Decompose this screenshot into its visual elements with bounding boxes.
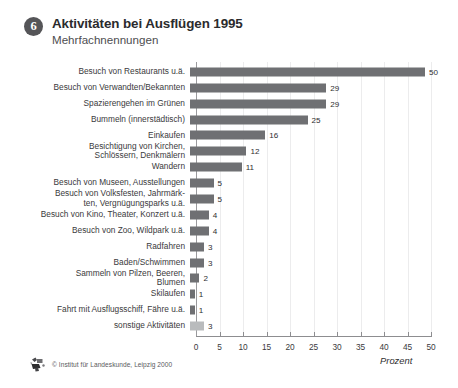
bar-container: 1 [190, 286, 458, 302]
bar-container: 16 [190, 128, 458, 144]
bar-container: 2 [190, 270, 458, 286]
bar-row: Besuch von Kino, Theater, Konzert u.ä.4 [0, 207, 458, 223]
x-axis-tick-label: 25 [304, 342, 324, 352]
bar-value-label: 12 [250, 147, 259, 156]
chart-header: 6 Aktivitäten bei Ausflügen 1995 Mehrfac… [24, 16, 243, 47]
bar-container: 12 [190, 143, 458, 159]
bar-value-label: 25 [312, 115, 321, 124]
bar-value-label: 3 [208, 322, 213, 331]
x-axis-tick-label: 40 [374, 342, 394, 352]
bar-value-label: 3 [208, 242, 213, 251]
x-axis-line [196, 336, 431, 337]
bar [190, 147, 246, 156]
x-axis-tick-label: 5 [210, 342, 230, 352]
category-label: Baden/Schwimmen [0, 258, 190, 268]
x-axis-tick-label: 30 [327, 342, 347, 352]
bar-row: Bummeln (innerstädtisch)25 [0, 112, 458, 128]
bar-value-label: 29 [330, 99, 339, 108]
bar-container: 5 [190, 191, 458, 207]
bar-value-label: 1 [199, 290, 204, 299]
bar-value-label: 1 [199, 306, 204, 315]
category-label: Besuch von Kino, Theater, Konzert u.ä. [0, 210, 190, 220]
institute-logo-icon [29, 356, 46, 373]
bar-container: 3 [190, 255, 458, 271]
bar-container: 50 [190, 64, 458, 80]
figure-number-badge: 6 [24, 17, 43, 36]
bar-value-label: 5 [218, 194, 223, 203]
bar-value-label: 3 [208, 258, 213, 267]
bar [190, 115, 308, 124]
bar [190, 99, 326, 108]
category-label: sonstige Aktivitäten [0, 321, 190, 331]
category-label: Besuch von Verwandten/Bekannten [0, 83, 190, 93]
bar-row: Besuch von Verwandten/Bekannten29 [0, 80, 458, 96]
x-axis-tick-label: 50 [421, 342, 441, 352]
category-label: Besuch von Restaurants u.ä. [0, 67, 190, 77]
category-label: Besichtigung von Kirchen, Schlössern, De… [0, 142, 190, 161]
bar [190, 163, 242, 172]
bar-row: Fahrt mit Ausflugsschiff, Fähre u.ä.1 [0, 302, 458, 318]
chart-subtitle: Mehrfachnennungen [52, 33, 243, 47]
bar-container: 4 [190, 223, 458, 239]
bar [190, 210, 209, 219]
bar-container: 29 [190, 96, 458, 112]
category-label: Spazierengehen im Grünen [0, 99, 190, 109]
bar [190, 306, 195, 315]
bar-row: Sammeln von Pilzen, Beeren, Blumen2 [0, 270, 458, 286]
bar-row: Spazierengehen im Grünen29 [0, 96, 458, 112]
bar [190, 67, 425, 76]
category-label: Skilaufen [0, 289, 190, 299]
bar-value-label: 4 [213, 226, 218, 235]
bar-row: Besuch von Restaurants u.ä.50 [0, 64, 458, 80]
bar-value-label: 5 [218, 179, 223, 188]
plot-area: Besuch von Restaurants u.ä.50Besuch von … [0, 62, 458, 340]
footer: © Institut für Landeskunde, Leipzig 2000 [29, 356, 172, 373]
x-axis-tick-label: 20 [280, 342, 300, 352]
chart-figure: 6 Aktivitäten bei Ausflügen 1995 Mehrfac… [0, 0, 458, 388]
x-axis-tick-label: 10 [233, 342, 253, 352]
x-axis-tick-label: 15 [257, 342, 277, 352]
bar-row: Besuch von Zoo, Wildpark u.ä.4 [0, 223, 458, 239]
bar-container: 3 [190, 239, 458, 255]
bar-container: 1 [190, 302, 458, 318]
bar-value-label: 2 [203, 274, 208, 283]
bar [190, 274, 199, 283]
bar-row: sonstige Aktivitäten3 [0, 318, 458, 334]
bar-value-label: 29 [330, 83, 339, 92]
category-label: Fahrt mit Ausflugsschiff, Fähre u.ä. [0, 305, 190, 315]
category-label: Radfahren [0, 242, 190, 252]
bar [190, 131, 265, 140]
bar-container: 25 [190, 112, 458, 128]
bar [190, 83, 326, 92]
bar-row: Skilaufen1 [0, 286, 458, 302]
bar-value-label: 16 [269, 131, 278, 140]
bar-container: 29 [190, 80, 458, 96]
bar-container: 11 [190, 159, 458, 175]
x-axis-tick-label: 35 [351, 342, 371, 352]
category-label: Besuch von Zoo, Wildpark u.ä. [0, 226, 190, 236]
bar-row: Wandern11 [0, 159, 458, 175]
bar [190, 242, 204, 251]
bar [190, 194, 214, 203]
page-title: Aktivitäten bei Ausflügen 1995 [52, 16, 243, 31]
bar-container: 5 [190, 175, 458, 191]
bar-row: Radfahren3 [0, 239, 458, 255]
copyright-text: © Institut für Landeskunde, Leipzig 2000 [52, 361, 172, 368]
category-label: Besuch von Museen, Ausstellungen [0, 178, 190, 188]
bar-row: Besichtigung von Kirchen, Schlössern, De… [0, 143, 458, 159]
category-label: Bummeln (innerstädtisch) [0, 115, 190, 125]
title-block: Aktivitäten bei Ausflügen 1995 Mehrfachn… [52, 16, 243, 47]
bar-container: 4 [190, 207, 458, 223]
category-label: Einkaufen [0, 131, 190, 141]
category-label: Besuch von Volksfesten, Jahrmärk- ten, V… [0, 189, 190, 208]
bar-value-label: 50 [429, 67, 438, 76]
bar-value-label: 11 [246, 163, 254, 172]
bar [190, 258, 204, 267]
x-axis-title: Prozent [380, 355, 412, 366]
bar [190, 290, 195, 299]
x-axis-tick-label: 45 [398, 342, 418, 352]
bar-row: Besuch von Volksfesten, Jahrmärk- ten, V… [0, 191, 458, 207]
bar [190, 226, 209, 235]
bar-container: 3 [190, 318, 458, 334]
bar-value-label: 4 [213, 210, 218, 219]
